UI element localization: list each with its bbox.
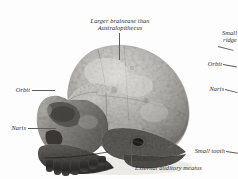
leader-orbit-left xyxy=(32,90,55,91)
leader-orbit-right xyxy=(223,64,237,67)
leader-naris-right xyxy=(225,89,238,93)
label-naris-left: Naris xyxy=(0,124,26,131)
anatomical-figure: Larger braincase than Australopithecus S… xyxy=(0,0,238,179)
label-small-ridge: Small ridge xyxy=(197,29,237,44)
label-orbit-right: Orbit xyxy=(182,60,222,67)
skull-illustration xyxy=(28,38,200,179)
leader-small-ridge xyxy=(218,46,234,50)
label-orbit-left: Orbit xyxy=(0,86,30,93)
leader-small-tooth xyxy=(226,151,238,153)
label-naris-right: Naris xyxy=(184,85,224,92)
skull-photograph xyxy=(28,38,200,179)
leader-braincase xyxy=(119,33,120,60)
label-small-tooth: Small tooth xyxy=(175,147,225,154)
label-braincase: Larger braincase than Australopithecus xyxy=(80,17,160,32)
leader-naris-left xyxy=(28,128,56,129)
label-external-auditory-meatus: External auditory meatus xyxy=(135,164,238,171)
leader-external-auditory-meatus xyxy=(131,143,132,165)
dentition-region xyxy=(38,144,114,176)
